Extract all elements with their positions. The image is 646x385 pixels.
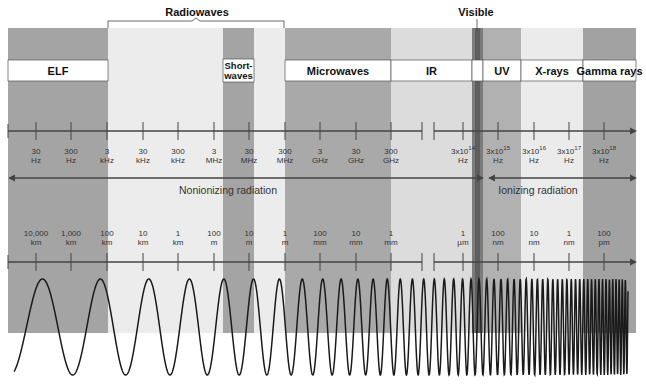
tick-value: 1,000 (61, 229, 82, 238)
tick-unit: GHz (348, 156, 364, 165)
radiowaves-label: Radiowaves (165, 6, 229, 18)
tick-unit: km (173, 238, 184, 247)
tick-value: 30 (139, 147, 148, 156)
band-radio-light (108, 28, 223, 333)
tick-unit: µm (457, 238, 469, 247)
tick-unit: Hz (564, 156, 574, 165)
tick-value: 300 (384, 147, 398, 156)
band-radio-light-2 (254, 28, 285, 333)
tick-value: 300 (171, 147, 185, 156)
tick-unit: m (211, 238, 218, 247)
tick-unit: pm (598, 238, 609, 247)
tick-unit: nm (563, 238, 574, 247)
label-box-visible (472, 60, 483, 81)
tick-value: 1 (461, 229, 466, 238)
top-labels: Radiowaves Visible (108, 6, 494, 28)
tick-value: 1 (176, 229, 181, 238)
tick-value: 10 (139, 229, 148, 238)
tick-unit: mm (349, 238, 363, 247)
tick-unit: MHz (241, 156, 257, 165)
tick-value: 10,000 (24, 229, 49, 238)
tick-value: 100 (597, 229, 611, 238)
tick-unit: km (66, 238, 77, 247)
band-label-bar: ELFShort-wavesMicrowavesIRUVX-raysGamma … (8, 59, 643, 82)
tick-unit: m (246, 238, 253, 247)
band-label-xrays: X-rays (535, 65, 569, 77)
tick-unit: Hz (599, 156, 609, 165)
nonionizing-label: Nonionizing radiation (179, 184, 277, 196)
tick-value: 1 (567, 229, 572, 238)
tick-value: 3 (212, 147, 217, 156)
tick-value: 30 (352, 147, 361, 156)
tick-unit: Hz (31, 156, 41, 165)
tick-unit: GHz (312, 156, 328, 165)
tick-unit: MHz (206, 156, 222, 165)
tick-value: 100 (100, 229, 114, 238)
tick-unit: MHz (277, 156, 293, 165)
tick-value: 1 (389, 229, 394, 238)
tick-value: 10 (245, 229, 254, 238)
tick-unit: Hz (458, 156, 468, 165)
tick-unit: mm (313, 238, 327, 247)
tick-unit: km (138, 238, 149, 247)
band-label-gamma: Gamma rays (576, 65, 642, 77)
tick-value: 10 (352, 229, 361, 238)
visible-label: Visible (458, 6, 493, 18)
tick-value: 100 (491, 229, 505, 238)
band-label-shortwaves: waves (223, 70, 253, 81)
tick-unit: Hz (66, 156, 76, 165)
em-spectrum-diagram: ELFShort-wavesMicrowavesIRUVX-raysGamma … (0, 0, 646, 385)
tick-value: 30 (32, 147, 41, 156)
tick-value: 300 (278, 147, 292, 156)
tick-value: 100 (313, 229, 327, 238)
tick-unit: Hz (529, 156, 539, 165)
tick-unit: m (282, 238, 289, 247)
tick-value: 300 (64, 147, 78, 156)
band-label-uv: UV (494, 65, 510, 77)
tick-value: 30 (245, 147, 254, 156)
tick-unit: nm (528, 238, 539, 247)
tick-unit: Hz (493, 156, 503, 165)
tick-unit: nm (492, 238, 503, 247)
tick-unit: km (31, 238, 42, 247)
tick-unit: km (102, 238, 113, 247)
tick-value: 100 (207, 229, 221, 238)
radiowaves-bracket (108, 18, 284, 28)
tick-value: 3 (318, 147, 323, 156)
tick-unit: kHz (171, 156, 185, 165)
tick-value: 1 (283, 229, 288, 238)
tick-value: 3 (105, 147, 110, 156)
tick-unit: GHz (383, 156, 399, 165)
tick-unit: kHz (136, 156, 150, 165)
band-label-elf: ELF (48, 65, 69, 77)
tick-value: 10 (530, 229, 539, 238)
tick-unit: mm (384, 238, 398, 247)
band-label-microwaves: Microwaves (307, 65, 369, 77)
ionizing-label: Ionizing radiation (498, 184, 578, 196)
tick-unit: kHz (100, 156, 114, 165)
band-label-ir: IR (426, 65, 437, 77)
